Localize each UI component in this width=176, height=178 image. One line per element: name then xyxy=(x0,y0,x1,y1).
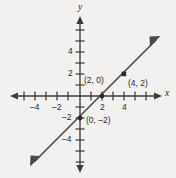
annotation-point-2-0: (2, 0) xyxy=(84,76,104,85)
annotation-point-0-neg2: (0, –2) xyxy=(86,116,111,125)
x-tick-label-neg2: –2 xyxy=(52,103,61,112)
annotation-point-4-2: (4, 2) xyxy=(128,79,148,88)
y-tick-label-4: 4 xyxy=(68,47,73,56)
x-tick-label-4: 4 xyxy=(122,103,127,112)
x-tick-label-neg4: –4 xyxy=(30,103,39,112)
y-tick-label-neg2: –2 xyxy=(62,113,71,122)
x-axis-name: x xyxy=(165,89,169,99)
point-marker-0-neg2 xyxy=(78,116,83,121)
point-marker-4-2 xyxy=(122,72,127,77)
coordinate-plane-graph xyxy=(0,0,176,178)
figure-background xyxy=(0,0,176,178)
point-marker-2-0 xyxy=(100,94,105,99)
y-axis-name: y xyxy=(78,3,82,13)
x-tick-label-2: 2 xyxy=(100,103,105,112)
y-tick-label-2: 2 xyxy=(68,69,73,78)
y-tick-label-neg4: –4 xyxy=(62,135,71,144)
